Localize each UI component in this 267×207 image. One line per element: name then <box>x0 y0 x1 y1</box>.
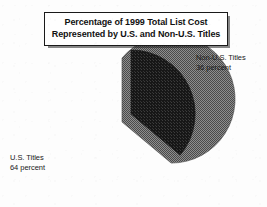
slice-label-us-value: 64 percent <box>10 163 45 173</box>
slice-label-us-name: U.S. Titles <box>10 153 45 163</box>
pie-chart-figure: Percentage of 1999 Total List Cost Repre… <box>0 0 267 207</box>
slice-label-non-us-value: 36 percent <box>196 63 246 73</box>
chart-title-line-2: Represented by U.S. and Non-U.S. Titles <box>47 29 225 41</box>
slice-label-non-us-name: Non-U.S. Titles <box>196 53 246 63</box>
slice-label-us-titles: U.S. Titles 64 percent <box>10 153 45 172</box>
slice-label-non-us-titles: Non-U.S. Titles 36 percent <box>196 53 246 72</box>
chart-title-box: Percentage of 1999 Total List Cost Repre… <box>44 12 228 46</box>
chart-title-line-1: Percentage of 1999 Total List Cost <box>47 17 225 29</box>
